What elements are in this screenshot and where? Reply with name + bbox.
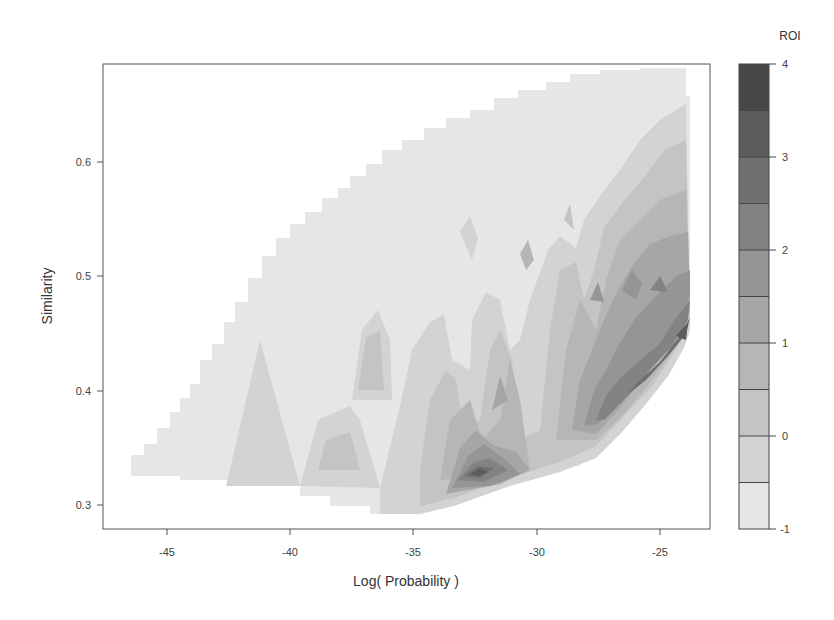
y-tick-label: 0.4 xyxy=(76,385,91,397)
colorbar-tick-label: 3 xyxy=(782,151,788,163)
x-tick-label: -35 xyxy=(405,546,421,558)
x-tick-label: -25 xyxy=(652,546,668,558)
y-tick-label: 0.6 xyxy=(76,156,91,168)
colorbar-tick-label: 0 xyxy=(782,430,788,442)
x-axis-title: Log( Probability ) xyxy=(353,573,459,589)
colorbar: ROI -1 0 1 2 xyxy=(739,29,801,535)
colorbar-tick-label: -1 xyxy=(780,523,790,535)
colorbar-tick-label: 4 xyxy=(782,58,788,70)
x-axis: -45 -40 -35 -30 -25 Log( Probability ) xyxy=(159,529,668,589)
x-tick-label: -40 xyxy=(282,546,298,558)
x-tick-label: -30 xyxy=(529,546,545,558)
contour-chart: -45 -40 -35 -30 -25 Log( Probability ) 0… xyxy=(0,0,834,620)
colorbar-tick-label: 2 xyxy=(782,244,788,256)
colorbar-title: ROI xyxy=(779,29,800,43)
x-tick-label: -45 xyxy=(159,546,175,558)
y-tick-label: 0.5 xyxy=(76,270,91,282)
y-axis-title: Similarity xyxy=(39,268,55,325)
colorbar-tick-label: 1 xyxy=(782,337,788,349)
plot-area xyxy=(103,64,710,529)
y-axis: 0.3 0.4 0.5 0.6 Similarity xyxy=(39,156,103,511)
y-tick-label: 0.3 xyxy=(76,499,91,511)
